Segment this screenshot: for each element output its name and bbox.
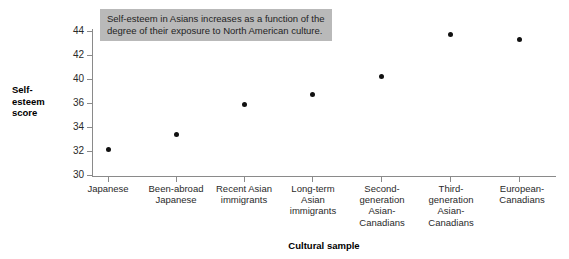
x-category-label-line: immigrants — [208, 194, 280, 205]
x-category-label-japanese: Japanese — [72, 183, 144, 194]
y-tick-label-30: 30 — [58, 170, 84, 180]
x-category-label-line: Japanese — [140, 194, 212, 205]
data-point — [379, 74, 384, 79]
x-category-label-line: generation — [346, 194, 418, 205]
data-point — [310, 92, 315, 97]
x-axis-tick — [176, 177, 177, 182]
x-category-label-line: Japanese — [72, 183, 144, 194]
x-axis-tick — [450, 177, 451, 182]
x-axis-tick — [244, 177, 245, 182]
x-category-label-line: Canadians — [415, 217, 487, 228]
plot-area — [92, 29, 556, 177]
x-category-label-line: Recent Asian — [208, 183, 280, 194]
x-category-label-european-canadians: European- Canadians — [484, 183, 560, 205]
x-category-label-line: immigrants — [277, 205, 349, 216]
x-category-label-line: European- — [484, 183, 560, 194]
y-axis-title: Self- esteem score — [12, 84, 62, 119]
x-category-label-line: Asian — [277, 194, 349, 205]
x-category-label-line: generation — [415, 194, 487, 205]
x-category-label-line: Second- — [346, 183, 418, 194]
data-point — [448, 32, 453, 37]
x-category-label-line: Been-abroad — [140, 183, 212, 194]
x-axis-tick — [519, 177, 520, 182]
y-tick-label-40: 40 — [58, 74, 84, 84]
x-category-label-recent-asian-immigrants: Recent Asian immigrants — [208, 183, 280, 205]
x-category-label-line: Long-term — [277, 183, 349, 194]
data-point — [174, 132, 179, 137]
x-category-label-line: Asian- — [415, 205, 487, 216]
y-tick-label-42: 42 — [58, 50, 84, 60]
scatter-chart: Self- esteem score 44 42 40 36 34 32 30 … — [0, 0, 569, 259]
x-category-label-third-generation-asian-canadians: Third- generation Asian- Canadians — [415, 183, 487, 228]
x-category-label-second-generation-asian-canadians: Second- generation Asian- Canadians — [346, 183, 418, 228]
y-axis-title-line-2: esteem — [12, 96, 62, 108]
y-tick-label-34: 34 — [58, 122, 84, 132]
x-category-label-long-term-asian-immigrants: Long-term Asian immigrants — [277, 183, 349, 217]
x-category-label-line: Asian- — [346, 205, 418, 216]
y-tick-label-32: 32 — [58, 146, 84, 156]
x-category-label-line: Canadians — [346, 217, 418, 228]
y-tick-label-44: 44 — [58, 26, 84, 36]
y-tick-label-38: 36 — [58, 98, 84, 108]
x-category-label-line: Canadians — [484, 194, 560, 205]
x-category-label-been-abroad-japanese: Been-abroad Japanese — [140, 183, 212, 205]
y-axis-title-line-3: score — [12, 107, 62, 119]
chart-annotation: Self-esteem in Asians increases as a fun… — [100, 9, 332, 41]
x-axis-tick — [381, 177, 382, 182]
x-axis-tick — [312, 177, 313, 182]
x-axis-title: Cultural sample — [92, 240, 556, 251]
data-point — [242, 102, 247, 107]
x-category-label-line: Third- — [415, 183, 487, 194]
data-point — [517, 37, 522, 42]
x-axis-tick — [108, 177, 109, 182]
data-point — [106, 147, 111, 152]
y-axis-title-line-1: Self- — [12, 84, 62, 96]
